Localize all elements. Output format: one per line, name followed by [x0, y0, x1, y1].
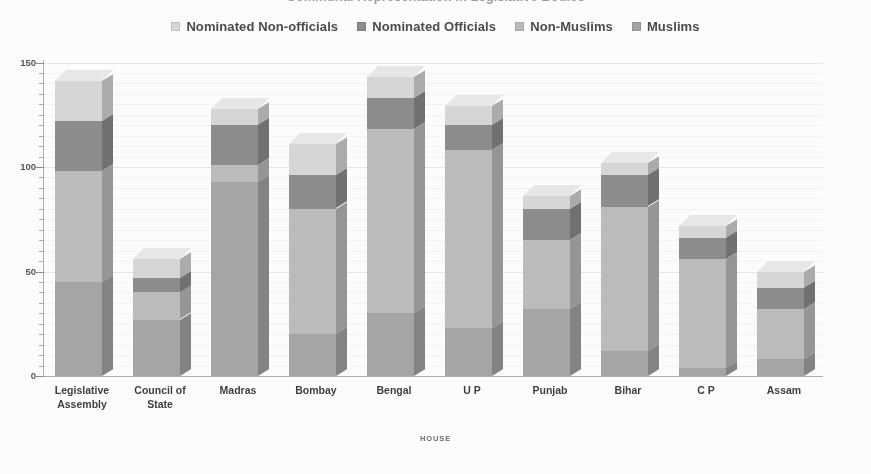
bar-stack[interactable]	[367, 77, 414, 376]
y-tick-label: 50	[2, 266, 36, 277]
bar-segment[interactable]	[55, 282, 102, 376]
bar-segment[interactable]	[679, 259, 726, 368]
chart-page: Communal Representation in Legislative B…	[0, 0, 871, 474]
y-tick-label: 150	[2, 57, 36, 68]
bar-group[interactable]	[289, 144, 336, 376]
x-axis-category-label: Bombay	[277, 384, 355, 398]
bar-segment[interactable]	[757, 288, 804, 309]
bar-segment[interactable]	[679, 226, 726, 239]
category-label-line-1: Bombay	[295, 384, 336, 396]
category-label-line-1: Bihar	[615, 384, 642, 396]
x-axis-category-label: Punjab	[511, 384, 589, 398]
bar-series-container	[43, 55, 823, 376]
category-label-line-1: C P	[697, 384, 715, 396]
x-axis-category-label: Bengal	[355, 384, 433, 398]
category-label-line-1: Legislative	[55, 384, 109, 396]
bar-segment[interactable]	[445, 106, 492, 125]
bar-segment[interactable]	[211, 165, 258, 182]
bar-segment[interactable]	[445, 150, 492, 328]
bar-group[interactable]	[133, 259, 180, 376]
y-tick-label: 0	[2, 370, 36, 381]
bar-segment[interactable]	[523, 240, 570, 309]
y-tick-major	[36, 376, 44, 377]
x-axis-category-label: U P	[433, 384, 511, 398]
bar-segment[interactable]	[55, 81, 102, 121]
bar-stack[interactable]	[679, 226, 726, 376]
x-axis-title: HOUSE	[0, 434, 871, 443]
bar-stack[interactable]	[445, 106, 492, 376]
x-axis-category-label: C P	[667, 384, 745, 398]
bar-segment[interactable]	[523, 209, 570, 240]
bar-segment[interactable]	[523, 309, 570, 376]
bar-stack[interactable]	[757, 272, 804, 376]
bar-segment[interactable]	[289, 175, 336, 208]
bar-segment[interactable]	[601, 175, 648, 206]
category-label-line-1: Assam	[767, 384, 801, 396]
bar-segment[interactable]	[133, 320, 180, 376]
bar-group[interactable]	[445, 106, 492, 376]
category-label-line-2: Assembly	[43, 398, 121, 412]
bar-segment[interactable]	[367, 98, 414, 129]
category-label-line-1: Bengal	[376, 384, 411, 396]
bar-stack[interactable]	[211, 109, 258, 377]
bar-segment[interactable]	[55, 121, 102, 171]
bar-segment[interactable]	[445, 328, 492, 376]
x-axis-line	[43, 376, 823, 377]
bar-segment[interactable]	[601, 207, 648, 351]
category-label-line-1: Council of	[134, 384, 185, 396]
bar-segment[interactable]	[133, 278, 180, 293]
bar-segment[interactable]	[757, 272, 804, 289]
bar-segment[interactable]	[289, 334, 336, 376]
bar-group[interactable]	[601, 163, 648, 376]
bar-segment[interactable]	[367, 129, 414, 313]
bar-group[interactable]	[367, 77, 414, 376]
bar-segment[interactable]	[757, 359, 804, 376]
bar-segment[interactable]	[679, 238, 726, 259]
x-axis-category-label: Madras	[199, 384, 277, 398]
x-axis-category-labels: LegislativeAssemblyCouncil ofStateMadras…	[43, 384, 823, 430]
bar-segment[interactable]	[367, 77, 414, 98]
bar-segment[interactable]	[133, 259, 180, 278]
bar-segment[interactable]	[601, 163, 648, 176]
category-label-line-1: Punjab	[532, 384, 567, 396]
bar-segment[interactable]	[445, 125, 492, 150]
bar-segment[interactable]	[55, 171, 102, 282]
bar-segment[interactable]	[133, 292, 180, 319]
bar-segment[interactable]	[289, 209, 336, 334]
y-tick-label: 100	[2, 161, 36, 172]
category-label-line-1: U P	[463, 384, 481, 396]
category-label-line-1: Madras	[220, 384, 257, 396]
bar-stack[interactable]	[601, 163, 648, 376]
x-axis-category-label: LegislativeAssembly	[43, 384, 121, 411]
bar-group[interactable]	[679, 226, 726, 376]
x-axis-category-label: Assam	[745, 384, 823, 398]
category-label-line-2: State	[121, 398, 199, 412]
bar-segment[interactable]	[211, 109, 258, 126]
bar-segment[interactable]	[523, 196, 570, 209]
bar-group[interactable]	[211, 108, 258, 376]
bar-stack[interactable]	[133, 259, 180, 376]
bar-segment[interactable]	[601, 351, 648, 376]
bar-stack[interactable]	[523, 196, 570, 376]
bar-segment[interactable]	[211, 182, 258, 376]
x-axis-category-label: Bihar	[589, 384, 667, 398]
bar-stack[interactable]	[289, 144, 336, 376]
bar-group[interactable]	[55, 81, 102, 376]
bar-segment[interactable]	[289, 144, 336, 175]
bar-segment[interactable]	[367, 313, 414, 376]
bar-segment[interactable]	[679, 368, 726, 376]
bar-group[interactable]	[757, 272, 804, 377]
bar-stack[interactable]	[55, 81, 102, 376]
bar-segment[interactable]	[211, 125, 258, 165]
bar-segment[interactable]	[757, 309, 804, 359]
bar-group[interactable]	[523, 196, 570, 376]
x-axis-category-label: Council ofState	[121, 384, 199, 411]
